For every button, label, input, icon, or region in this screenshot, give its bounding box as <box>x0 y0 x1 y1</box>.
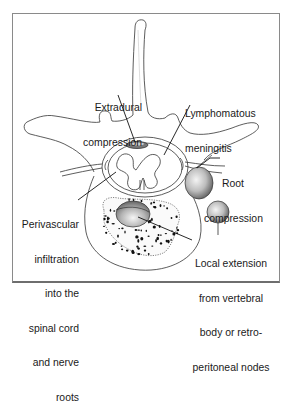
label-line: Local extension <box>186 258 276 270</box>
label-line: peritoneal nodes <box>186 362 276 374</box>
marrow-dot <box>167 240 169 244</box>
label-line: spinal cord <box>10 323 79 335</box>
label-line: Root <box>204 178 263 190</box>
label-line: infiltration <box>10 254 79 266</box>
label-line: and nerve <box>10 357 79 369</box>
marrow-dot <box>171 217 173 219</box>
label-line: meningitis <box>185 143 256 155</box>
marrow-dot <box>128 198 129 201</box>
marrow-dot <box>153 225 156 228</box>
marrow-dot <box>150 203 151 205</box>
marrow-dot <box>153 202 155 204</box>
marrow-dot <box>148 253 150 255</box>
label-line: compression <box>204 213 263 225</box>
label-perivascular-infiltration: Perivascular infiltration into the spina… <box>10 196 79 405</box>
marrow-dot <box>110 209 111 212</box>
marrow-dot <box>137 247 139 248</box>
marrow-dot <box>153 206 156 208</box>
marrow-dot <box>176 227 177 229</box>
label-line: from vertebral <box>186 293 276 305</box>
marrow-dot <box>106 221 109 224</box>
marrow-dot <box>113 210 115 211</box>
marrow-dot <box>163 205 165 206</box>
label-line: roots <box>10 392 79 404</box>
marrow-dot <box>160 242 162 244</box>
marrow-dot <box>160 235 162 236</box>
marrow-dot <box>121 248 123 250</box>
marrow-dot <box>103 226 105 227</box>
marrow-dot <box>144 250 146 252</box>
marrow-dot <box>146 230 147 232</box>
marrow-dot <box>135 235 138 238</box>
label-extradural-compression: Extradural compression <box>52 79 142 171</box>
marrow-dot <box>131 250 134 254</box>
marrow-dot <box>105 232 107 234</box>
marrow-dot <box>148 236 150 237</box>
marrow-dot <box>135 229 138 231</box>
marrow-dot <box>177 229 180 231</box>
marrow-dot <box>176 216 178 218</box>
marrow-dot <box>104 215 107 216</box>
label-line: Perivascular <box>10 219 79 231</box>
marrow-dot <box>170 239 171 241</box>
marrow-dot <box>166 207 168 209</box>
marrow-dot <box>121 227 123 229</box>
marrow-dot <box>137 229 140 230</box>
marrow-dot <box>151 245 153 246</box>
marrow-dot <box>115 242 117 244</box>
marrow-dot <box>124 231 125 234</box>
label-line: Extradural <box>52 102 142 114</box>
marrow-dot <box>141 200 143 202</box>
marrow-dot <box>143 245 146 247</box>
marrow-dot <box>151 218 153 222</box>
marrow-dot <box>117 235 119 238</box>
label-line: compression <box>52 137 142 149</box>
leader-perivascular <box>78 172 116 200</box>
label-line: body or retro- <box>186 327 276 339</box>
label-line: Lymphomatous <box>185 108 256 120</box>
marrow-dot <box>140 237 143 241</box>
marrow-dot <box>137 239 139 243</box>
marrow-dot <box>150 220 151 222</box>
marrow-dot <box>141 230 142 232</box>
marrow-dot <box>126 250 129 252</box>
marrow-dot <box>156 237 159 240</box>
marrow-dot <box>121 246 123 247</box>
marrow-dot <box>160 204 162 207</box>
marrow-dot <box>118 228 120 229</box>
marrow-dot <box>103 218 105 220</box>
marrow-dot <box>112 243 115 245</box>
marrow-dot <box>107 217 109 221</box>
marrow-dot <box>112 223 115 225</box>
label-root-compression: Root compression <box>204 155 263 247</box>
marrow-dot <box>165 233 167 234</box>
label-local-extension: Local extension from vertebral body or r… <box>186 235 276 396</box>
label-line: into the <box>10 288 79 300</box>
vertebral-tumor <box>116 201 150 227</box>
marrow-dot <box>137 253 140 255</box>
marrow-dot <box>158 234 160 236</box>
